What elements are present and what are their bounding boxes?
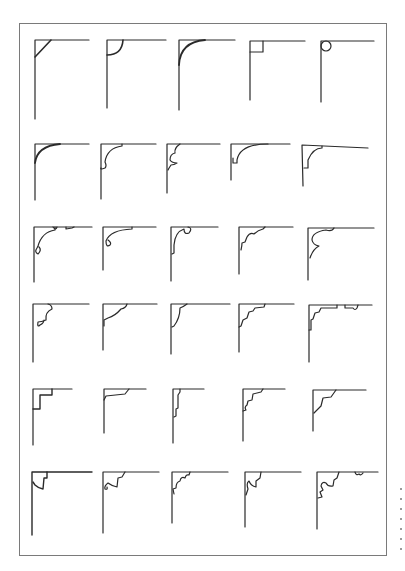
ornament-cove-with-bead xyxy=(101,144,156,199)
ornament-ogee-bracket xyxy=(103,304,157,350)
ornament-large-cove-curve xyxy=(179,40,235,110)
ornament-double-square-step xyxy=(33,389,72,445)
ornament-bead-and-cove-bracket xyxy=(33,304,89,362)
ornament-flat-ogee-bracket xyxy=(171,304,230,354)
ornament-stepped-bead-profile xyxy=(243,389,285,441)
ornament-scroll-with-beads xyxy=(34,227,92,282)
ornament-angled-step-bracket xyxy=(313,390,366,431)
ornament-wave-scroll xyxy=(239,227,293,274)
ornament-narrow-stepped-profile xyxy=(173,389,204,443)
ornament-stepped-angled-fillet xyxy=(104,389,146,433)
ornament-double-scroll-cove xyxy=(167,144,220,193)
ornament-scroll-bead-bracket xyxy=(103,472,159,533)
ornament-wavy-scroll-bracket xyxy=(172,472,228,523)
corner-ornament-grid xyxy=(0,0,405,571)
ornament-double-wave-bracket xyxy=(245,472,301,527)
ornament-scroll-with-bead xyxy=(103,227,156,270)
margin-marks xyxy=(399,488,405,558)
ornament-stepped-scroll-bracket xyxy=(239,304,294,352)
ornament-reverse-ogee-scroll xyxy=(308,228,374,280)
ornament-circle-bead xyxy=(321,41,374,102)
ornament-quarter-round-fillet xyxy=(107,40,166,108)
ornament-straight-chamfer xyxy=(35,40,89,119)
ornament-ogee-scroll xyxy=(171,227,218,281)
ornament-stepped-bracket-with-bead xyxy=(309,305,372,362)
ornament-ornate-scroll-with-beads xyxy=(317,472,378,529)
ornament-cove-with-step xyxy=(231,144,290,180)
ornament-sweeping-cove xyxy=(35,144,89,200)
ornament-heavy-cove-bracket xyxy=(32,472,92,535)
plate-page xyxy=(0,0,405,571)
ornament-square-notch xyxy=(250,41,305,100)
ornament-cove-with-step-long xyxy=(302,145,368,186)
